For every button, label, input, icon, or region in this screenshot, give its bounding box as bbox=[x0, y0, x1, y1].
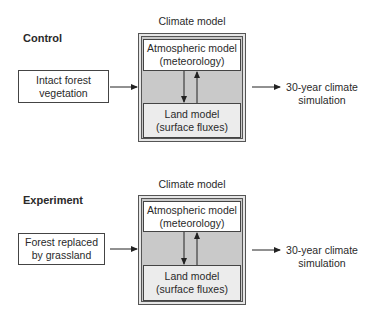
arrows-layer bbox=[0, 0, 367, 318]
